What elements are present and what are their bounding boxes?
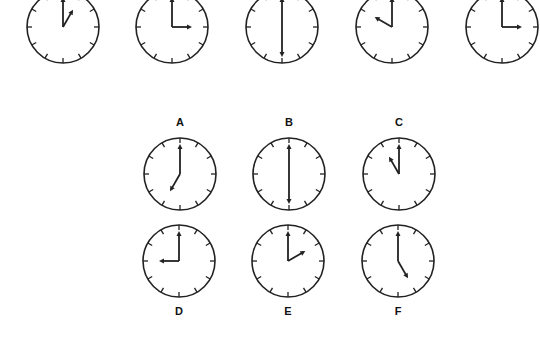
- clock-face-icon: [244, 0, 320, 65]
- option-clock-b[interactable]: [251, 136, 327, 212]
- option-clock-a[interactable]: [142, 136, 218, 212]
- clock-face-icon: [142, 136, 218, 212]
- clock-face-icon: [134, 0, 210, 65]
- sequence-clock-3: [244, 0, 320, 65]
- option-label-d: D: [164, 305, 194, 317]
- sequence-clock-1: [25, 0, 101, 65]
- option-label-a: A: [165, 116, 195, 128]
- option-label-e: E: [273, 305, 303, 317]
- clock-face-icon: [141, 223, 217, 299]
- sequence-clock-5: [464, 0, 540, 65]
- option-label-f: F: [383, 305, 413, 317]
- option-label-c: C: [384, 116, 414, 128]
- option-clock-d[interactable]: [141, 223, 217, 299]
- clock-face-icon: [251, 136, 327, 212]
- sequence-clock-2: [134, 0, 210, 65]
- clock-face-icon: [464, 0, 540, 65]
- clock-face-icon: [361, 136, 437, 212]
- option-clock-e[interactable]: [250, 223, 326, 299]
- option-clock-f[interactable]: [360, 223, 436, 299]
- sequence-clock-4: [354, 0, 430, 65]
- clock-face-icon: [354, 0, 430, 65]
- option-clock-c[interactable]: [361, 136, 437, 212]
- clock-face-icon: [360, 223, 436, 299]
- clock-face-icon: [250, 223, 326, 299]
- option-label-b: B: [274, 116, 304, 128]
- clock-face-icon: [25, 0, 101, 65]
